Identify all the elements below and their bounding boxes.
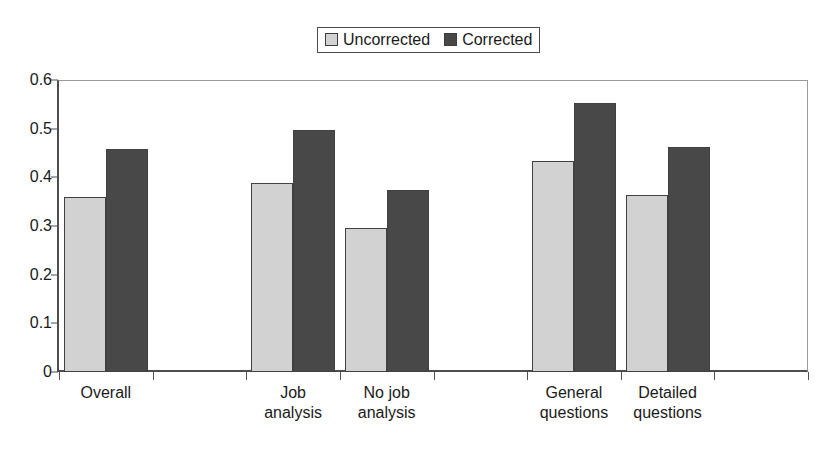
legend-entry-uncorrected: Uncorrected <box>325 31 430 48</box>
bar-corrected <box>668 147 710 372</box>
x-axis-tick-mark <box>246 372 247 380</box>
bar-corrected <box>293 130 335 372</box>
y-axis-tick-label: 0.5 <box>0 121 52 137</box>
x-axis-label: Detailed questions <box>621 383 715 423</box>
bar-chart-figure: Uncorrected Corrected 00.10.20.30.40.50.… <box>0 0 830 451</box>
bar-corrected <box>387 190 429 373</box>
bars-layer <box>59 80 808 372</box>
y-axis-tick-label: 0.6 <box>0 72 52 88</box>
x-axis-tick-mark <box>59 372 60 380</box>
bar-uncorrected <box>251 183 293 372</box>
legend-entry-corrected: Corrected <box>444 31 532 48</box>
y-axis-tick-mark <box>51 80 58 81</box>
legend-swatch-corrected <box>444 33 457 46</box>
y-axis-tick-mark <box>51 274 58 275</box>
y-axis-tick-mark <box>51 226 58 227</box>
bar-uncorrected <box>626 195 668 372</box>
y-axis-tick-mark <box>51 372 58 373</box>
x-axis-tick-mark <box>340 372 341 380</box>
bar-uncorrected <box>532 161 574 372</box>
chart-legend: Uncorrected Corrected <box>317 27 540 53</box>
bar-uncorrected <box>345 228 387 372</box>
bar-corrected <box>106 149 148 372</box>
legend-label-uncorrected: Uncorrected <box>343 31 430 48</box>
y-axis-tick-label: 0.2 <box>0 267 52 283</box>
y-axis-tick-label: 0 <box>0 364 52 380</box>
bar-corrected <box>574 103 616 372</box>
y-axis-tick-mark <box>51 177 58 178</box>
x-axis-tick-mark <box>808 372 809 380</box>
legend-swatch-uncorrected <box>325 33 338 46</box>
x-axis-tick-mark <box>714 372 715 380</box>
x-axis-label: No job analysis <box>340 383 434 423</box>
y-axis-tick-mark <box>51 128 58 129</box>
y-axis-tick-label: 0.3 <box>0 218 52 234</box>
legend-label-corrected: Corrected <box>462 31 532 48</box>
x-axis-label: General questions <box>527 383 621 423</box>
x-axis-label: Job analysis <box>246 383 340 423</box>
y-axis-tick-label: 0.4 <box>0 169 52 185</box>
x-axis-tick-mark <box>621 372 622 380</box>
bar-uncorrected <box>64 197 106 372</box>
y-axis-tick-label: 0.1 <box>0 315 52 331</box>
x-axis-label: Overall <box>59 383 153 403</box>
x-axis-tick-mark <box>527 372 528 380</box>
x-axis-tick-mark <box>434 372 435 380</box>
y-axis-tick-mark <box>51 323 58 324</box>
x-axis-tick-mark <box>153 372 154 380</box>
